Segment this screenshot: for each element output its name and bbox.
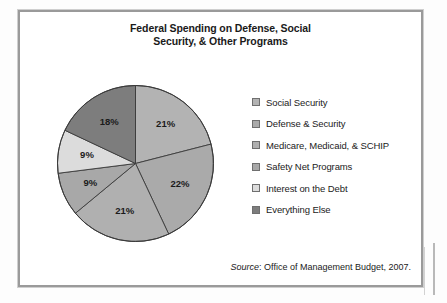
chart-title: Federal Spending on Defense, Social Secu… (18, 10, 423, 48)
legend-color-swatch (252, 184, 260, 192)
pie-chart-svg: 21%22%21%9%9%18% (57, 85, 214, 242)
legend-item-label: Social Security (266, 97, 327, 108)
legend-color-swatch (252, 163, 260, 171)
source-note: Source: Office of Management Budget, 200… (18, 262, 411, 272)
legend-color-swatch (252, 98, 260, 106)
legend: Social SecurityDefense & SecurityMedicar… (252, 92, 417, 221)
legend-color-swatch (252, 206, 260, 214)
legend-item[interactable]: Medicare, Medicaid, & SCHIP (252, 135, 417, 156)
legend-item[interactable]: Safety Net Programs (252, 157, 417, 178)
legend-color-swatch (252, 141, 260, 149)
legend-item[interactable]: Social Security (252, 92, 417, 113)
chart-title-line-2: Security, & Other Programs (18, 35, 423, 48)
legend-item[interactable]: Everything Else (252, 200, 417, 221)
pie-slice-value-label: 9% (84, 177, 98, 188)
legend-item-label: Interest on the Debt (266, 183, 347, 194)
scan-artifact-line (433, 243, 435, 295)
chart-title-line-1: Federal Spending on Defense, Social (18, 22, 423, 35)
pie-slice-value-label: 21% (156, 118, 176, 129)
pie-slice-value-label: 21% (115, 205, 135, 216)
legend-item[interactable]: Interest on the Debt (252, 178, 417, 199)
pie-slice-value-label: 9% (80, 149, 94, 160)
legend-item-label: Safety Net Programs (266, 161, 352, 172)
pie-chart: 21%22%21%9%9%18% (57, 85, 214, 242)
legend-item-label: Defense & Security (266, 118, 346, 129)
pie-slice-value-label: 18% (100, 116, 120, 127)
source-text: : Office of Management Budget, 2007. (259, 262, 411, 272)
legend-color-swatch (252, 120, 260, 128)
scan-artifact-line-secondary (424, 247, 425, 295)
legend-item-label: Everything Else (266, 204, 331, 215)
pie-slice-value-label: 22% (170, 178, 190, 189)
legend-item[interactable]: Defense & Security (252, 114, 417, 135)
pie-slice-group (57, 86, 213, 242)
source-label: Source (231, 262, 260, 272)
legend-item-label: Medicare, Medicaid, & SCHIP (266, 140, 389, 151)
